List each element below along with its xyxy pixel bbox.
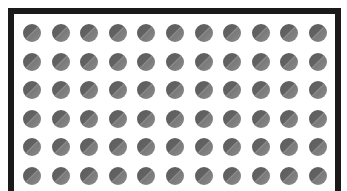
circle-dot xyxy=(252,138,270,156)
circle-dot xyxy=(166,24,184,42)
circle-dot xyxy=(166,167,184,185)
circle-dot xyxy=(280,81,298,99)
circle-dot xyxy=(109,138,127,156)
circle-dot xyxy=(80,110,98,128)
circle-dot xyxy=(80,138,98,156)
circle-dot xyxy=(80,24,98,42)
circle-dot xyxy=(23,24,41,42)
circle-dot xyxy=(195,53,213,71)
circle-dot xyxy=(80,81,98,99)
circle-dot xyxy=(309,167,327,185)
circle-dot xyxy=(137,24,155,42)
circle-dot xyxy=(280,53,298,71)
circle-dot xyxy=(23,110,41,128)
circle-dot xyxy=(195,81,213,99)
circle-dot xyxy=(109,81,127,99)
circle-dot xyxy=(166,110,184,128)
circle-dot xyxy=(252,110,270,128)
circle-dot xyxy=(137,53,155,71)
circle-dot xyxy=(52,167,70,185)
circle-dot xyxy=(166,138,184,156)
circle-dot xyxy=(137,167,155,185)
circle-dot xyxy=(80,53,98,71)
circle-dot xyxy=(23,167,41,185)
circle-dot xyxy=(309,138,327,156)
circle-dot xyxy=(52,81,70,99)
circle-dot xyxy=(80,167,98,185)
circle-dot xyxy=(166,53,184,71)
circle-dot xyxy=(223,81,241,99)
circle-dot xyxy=(23,81,41,99)
circle-dot xyxy=(309,81,327,99)
circle-dot xyxy=(309,110,327,128)
circle-dot xyxy=(309,53,327,71)
circle-dot xyxy=(109,110,127,128)
circle-dot xyxy=(309,24,327,42)
circle-dot xyxy=(52,138,70,156)
circle-dot xyxy=(109,53,127,71)
circle-dot xyxy=(52,53,70,71)
circle-dot xyxy=(280,167,298,185)
circle-dot xyxy=(23,138,41,156)
circle-dot xyxy=(195,138,213,156)
circle-dot xyxy=(137,138,155,156)
circle-dot xyxy=(252,167,270,185)
circle-dot xyxy=(137,110,155,128)
circle-dot xyxy=(252,81,270,99)
circle-dot xyxy=(109,24,127,42)
circle-dot xyxy=(195,167,213,185)
circle-dot xyxy=(252,53,270,71)
circle-dot xyxy=(280,24,298,42)
circle-dot xyxy=(195,110,213,128)
circle-dot xyxy=(23,53,41,71)
circle-dot xyxy=(252,24,270,42)
circle-dot xyxy=(280,110,298,128)
circle-dot xyxy=(195,24,213,42)
circle-dot xyxy=(109,167,127,185)
circle-dot xyxy=(223,53,241,71)
circle-dot xyxy=(166,81,184,99)
circle-dot xyxy=(52,24,70,42)
circle-dot xyxy=(280,138,298,156)
circle-dot xyxy=(223,110,241,128)
circle-dot xyxy=(223,24,241,42)
circle-dot xyxy=(52,110,70,128)
circle-dot xyxy=(223,167,241,185)
circle-dot xyxy=(137,81,155,99)
circle-dot xyxy=(223,138,241,156)
